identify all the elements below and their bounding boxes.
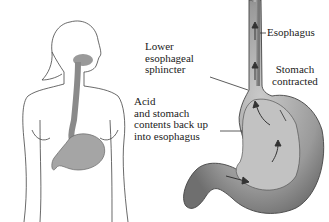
label-line: Stomach (272, 64, 318, 76)
label-line: contracted (272, 76, 318, 88)
label-line: Lower (145, 41, 194, 53)
label-esophagus: Esophagus (267, 27, 315, 39)
label-line: Acid (134, 96, 208, 108)
label-acid-reflux: Acid and stomach contents back up into e… (134, 96, 208, 142)
label-lower-esophageal-sphincter: Lower esophageal sphincter (145, 41, 194, 76)
label-line: into esophagus (134, 131, 208, 143)
label-line: contents back up (134, 119, 208, 131)
label-line: sphincter (145, 64, 194, 76)
label-stomach-contracted: Stomach contracted (272, 64, 318, 87)
mini-digestive-tract (52, 54, 105, 170)
